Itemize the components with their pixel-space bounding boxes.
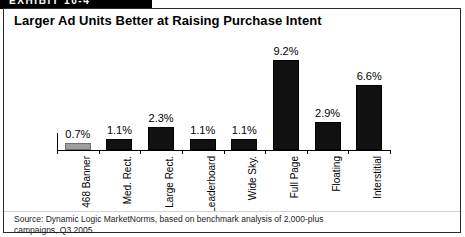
- bar-item: 9.2%: [265, 40, 307, 150]
- x-axis-tick: [99, 150, 100, 154]
- bar-rect: [356, 85, 382, 150]
- bar-value-label: 1.1%: [190, 124, 215, 136]
- bar-rect: [231, 139, 257, 150]
- bar-value-label: 2.3%: [149, 112, 174, 124]
- bar-value-label: 6.6%: [357, 70, 382, 82]
- bar-item: 0.7%: [57, 40, 99, 150]
- x-axis-tick: [182, 150, 183, 154]
- x-axis-category-label: 468 Banner: [82, 156, 92, 208]
- bar-rect: [106, 139, 132, 150]
- x-axis-tick: [140, 150, 141, 154]
- bar-value-label: 2.9%: [315, 107, 340, 119]
- exhibit-figure: EXHIBIT 10-4 Larger Ad Units Better at R…: [0, 0, 465, 237]
- x-axis-tick: [307, 150, 308, 154]
- bar-item: 1.1%: [182, 40, 224, 150]
- bar-item: 1.1%: [99, 40, 141, 150]
- bar-item: 2.9%: [307, 40, 349, 150]
- bar-value-label: 1.1%: [232, 124, 257, 136]
- x-axis-category-label: Large Rect.: [165, 156, 175, 208]
- x-axis-category-label: Med. Rect.: [123, 156, 133, 204]
- bar-item: 1.1%: [224, 40, 266, 150]
- x-axis-category-label: Leaderboard: [207, 156, 217, 213]
- footer-divider: [4, 211, 460, 212]
- x-axis-category-label: Floating: [332, 156, 342, 192]
- bar-value-label: 9.2%: [273, 45, 298, 57]
- x-axis-tick: [348, 150, 349, 154]
- chart-plot-area: Delta vs. Control 0.7%1.1%2.3%1.1%1.1%9.…: [0, 0, 465, 237]
- bar-value-label: 0.7%: [65, 128, 90, 140]
- x-axis-tick: [265, 150, 266, 154]
- bar-group: 0.7%1.1%2.3%1.1%1.1%9.2%2.9%6.6%: [57, 40, 390, 150]
- source-note: Source: Dynamic Logic MarketNorms, based…: [14, 214, 434, 236]
- bar-value-label: 1.1%: [107, 124, 132, 136]
- x-axis-category-label: Full Page: [290, 156, 300, 198]
- bar-rect: [148, 127, 174, 150]
- x-axis-tick: [390, 150, 391, 154]
- bar-item: 6.6%: [348, 40, 390, 150]
- bar-rect: [273, 60, 299, 150]
- x-axis-tick: [224, 150, 225, 154]
- bar-rect: [315, 122, 341, 150]
- source-note-line-1: Source: Dynamic Logic MarketNorms, based…: [14, 214, 434, 225]
- source-note-line-2: campaigns, Q3 2005.: [14, 225, 434, 236]
- x-axis-category-label: Interstitial: [373, 156, 383, 199]
- x-axis-tick: [57, 150, 58, 154]
- bar-rect: [65, 143, 91, 150]
- bar-item: 2.3%: [140, 40, 182, 150]
- x-axis-category-label: Wide Sky.: [248, 156, 258, 200]
- bar-rect: [190, 139, 216, 150]
